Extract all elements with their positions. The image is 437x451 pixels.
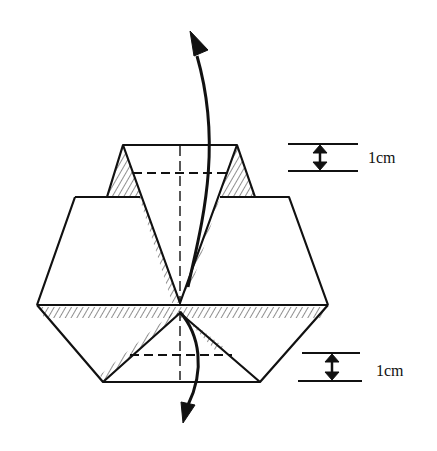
double-arrow-icon xyxy=(325,354,339,362)
arrow-head-up-icon xyxy=(190,31,208,56)
measure-label-top: 1cm xyxy=(368,149,396,166)
inner-triangle xyxy=(103,313,260,382)
measure-top xyxy=(288,144,358,171)
arrow-head-down-icon xyxy=(181,402,195,423)
hatched-shading xyxy=(107,145,140,197)
hatched-shading xyxy=(100,313,180,382)
origami-diagram: 1cm 1cm xyxy=(0,0,437,451)
measure-bottom xyxy=(298,353,362,381)
double-arrow-icon xyxy=(313,145,327,153)
left-flap xyxy=(37,197,140,305)
fold-arrows xyxy=(180,31,209,423)
paper-model xyxy=(37,145,328,382)
right-flap xyxy=(220,197,328,305)
measure-label-bottom: 1cm xyxy=(376,362,404,379)
hatched-shading xyxy=(220,145,255,197)
